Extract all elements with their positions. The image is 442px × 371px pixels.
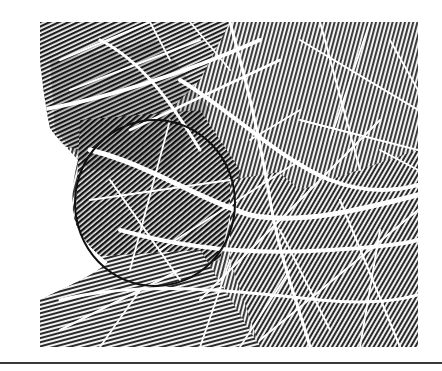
palm-print-image	[0, 0, 442, 371]
bottom-rule-divider	[0, 362, 442, 364]
palm-ridge-area	[40, 22, 418, 347]
palm-print-figure	[0, 0, 442, 371]
